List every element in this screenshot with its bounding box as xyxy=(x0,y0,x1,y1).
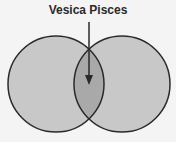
vesica-diagram xyxy=(0,0,176,142)
